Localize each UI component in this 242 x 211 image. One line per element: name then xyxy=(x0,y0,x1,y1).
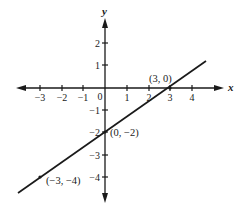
y-tick-label: 1 xyxy=(95,60,100,71)
y-axis-label: y xyxy=(100,5,107,17)
x-tick-label: 3 xyxy=(168,92,173,103)
x-axis xyxy=(16,85,224,91)
x-axis-left-arrow-icon xyxy=(16,85,26,91)
y-axis-up-arrow-icon xyxy=(102,18,108,28)
x-tick-label: −2 xyxy=(57,92,68,103)
x-tick-label: 4 xyxy=(190,92,195,103)
y-tick-label: −1 xyxy=(89,105,100,116)
point-marker xyxy=(38,175,41,178)
y-tick-label: 2 xyxy=(95,38,100,49)
y-tick-label: −3 xyxy=(89,150,100,161)
point-marker xyxy=(103,130,106,133)
y-axis-down-arrow-icon xyxy=(102,193,108,203)
coordinate-plane: −3 −2 −1 1 2 3 4 0 2 1 −1 −2 −3 −4 x y (… xyxy=(0,0,242,211)
x-axis-label: x xyxy=(227,81,234,93)
x-tick-label: −3 xyxy=(35,92,46,103)
point-marker xyxy=(168,86,171,89)
x-axis-right-arrow-icon xyxy=(214,85,224,91)
y-tick-label: −4 xyxy=(89,172,100,183)
point-label-neg3-neg4: (−3, −4) xyxy=(46,175,81,187)
x-tick-label: 1 xyxy=(125,92,130,103)
origin-label: 0 xyxy=(98,91,103,102)
x-tick-label: −1 xyxy=(78,92,89,103)
point-label-0-neg2: (0, −2) xyxy=(110,127,139,139)
point-label-3-0: (3, 0) xyxy=(149,73,172,85)
